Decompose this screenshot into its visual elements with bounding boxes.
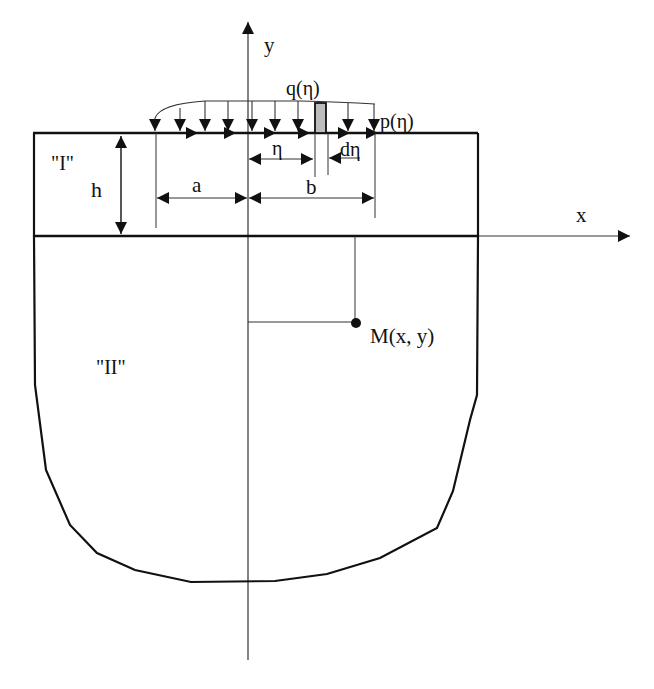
thickness-label: h [91,177,102,202]
point-m-label: M(x, y) [370,324,434,348]
eta-dimension-label: η [272,137,282,160]
point-m-projections [248,236,355,322]
x-axis-label: x [576,203,587,227]
a-dimension-label: a [192,173,202,197]
normal-load-arrows [155,101,374,131]
elementary-strip [315,103,326,133]
d-eta-dimension-label: dη [340,138,360,161]
b-dimension-label: b [306,175,317,199]
point-m-marker [351,318,361,328]
normal-load-label: q(η) [286,77,320,100]
normal-load-envelope [155,101,375,118]
diagram-canvas: y x q(η) p(η) "I" "II [0,0,654,689]
y-axis-label: y [264,33,275,57]
layer-i-label: "I" [51,152,74,174]
region-ii-label: "II" [96,356,126,378]
region-ii-boundary [34,236,478,582]
tangential-load-label: p(η) [380,110,414,133]
